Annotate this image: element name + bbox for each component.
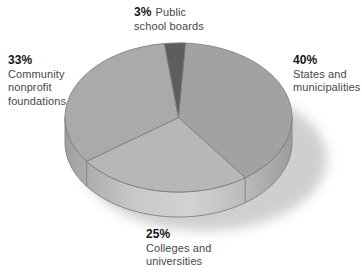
pie-slices-group	[65, 43, 292, 192]
label-line: 3%Public	[134, 6, 204, 20]
label-text: universities	[146, 255, 211, 269]
label-text: nonprofit	[8, 81, 66, 95]
label-states-and-municipalities: 40% States and municipalities	[293, 54, 360, 95]
label-text: Public	[156, 6, 187, 18]
pie-chart-figure: 3%Public school boards 40% States and mu…	[0, 0, 362, 275]
pct-colleges-and-universities: 25%	[146, 228, 211, 242]
pct-public-school-boards: 3%	[134, 5, 152, 19]
label-text: States and	[293, 68, 360, 82]
label-text: Community	[8, 68, 66, 82]
label-community-nonprofit-foundations: 33% Community nonprofit foundations	[8, 54, 66, 108]
label-text: school boards	[134, 20, 204, 34]
pct-community-nonprofit-foundations: 33%	[8, 54, 66, 68]
pct-states-and-municipalities: 40%	[293, 54, 360, 68]
label-colleges-and-universities: 25% Colleges and universities	[146, 228, 211, 269]
label-public-school-boards: 3%Public school boards	[134, 6, 204, 33]
label-text: Colleges and	[146, 242, 211, 256]
label-text: municipalities	[293, 81, 360, 95]
label-text: foundations	[8, 95, 66, 109]
